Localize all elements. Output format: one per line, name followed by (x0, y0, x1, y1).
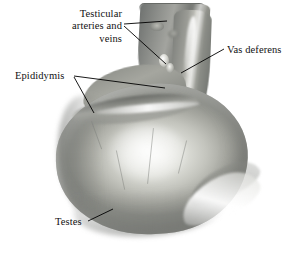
anatomy-figure: Testicular arteries and veins Vas defere… (0, 0, 302, 254)
leader-line-epididymis-lower (74, 77, 94, 113)
leader-line-vas-deferens (181, 49, 224, 73)
leader-line-testicular-arteries-upper (124, 21, 167, 24)
label-testicular-arteries-and-veins: Testicular arteries and veins (44, 8, 122, 45)
leader-line-epididymis-upper (74, 76, 165, 88)
label-testes: Testes (55, 216, 82, 228)
label-vas-deferens: Vas deferens (227, 44, 282, 56)
leader-line-testes (88, 209, 113, 221)
label-epididymis: Epididymis (15, 70, 64, 82)
leader-line-testicular-arteries-lower (124, 26, 166, 64)
